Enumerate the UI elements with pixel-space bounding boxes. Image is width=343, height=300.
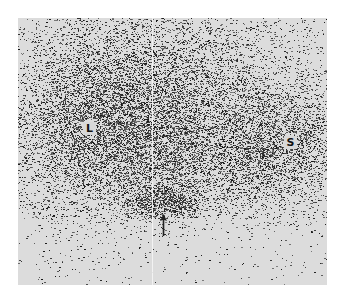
- label-l: L: [83, 122, 96, 135]
- label-s: S: [284, 136, 297, 149]
- vertical-seam-line: [152, 18, 153, 285]
- scintigram-image: L S: [18, 18, 327, 285]
- arrow-up-icon: [159, 214, 168, 236]
- uptake-pattern: [18, 18, 327, 285]
